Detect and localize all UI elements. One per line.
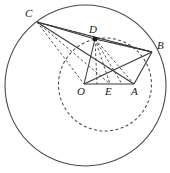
point-marker-D [93, 37, 97, 41]
segment-O-B [84, 52, 152, 84]
point-label-D: D [89, 24, 97, 35]
point-label-B: B [157, 40, 164, 51]
point-label-O: O [77, 86, 85, 97]
point-label-E: E [105, 86, 112, 97]
segment-C-A [37, 22, 134, 84]
outer-circle [5, 5, 166, 166]
segment-D-O [84, 39, 95, 84]
segment-C-O-dashed [37, 22, 84, 84]
point-label-C: C [25, 8, 32, 19]
geometry-figure: C D B O E A [0, 0, 170, 173]
point-label-A: A [131, 86, 138, 97]
segment-D-mid1-dashed [95, 39, 97, 84]
geometry-canvas [0, 0, 170, 173]
